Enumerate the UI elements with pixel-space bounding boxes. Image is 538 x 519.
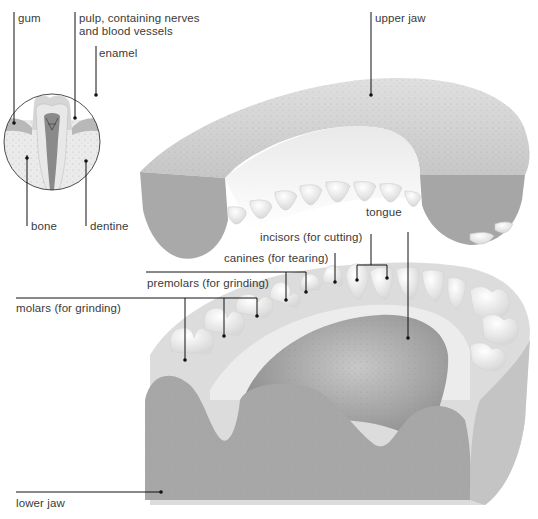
label-pulp: pulp, containing nerves and blood vessel…: [79, 12, 200, 38]
label-dentine: dentine: [90, 220, 128, 233]
label-bone: bone: [31, 220, 57, 233]
label-premolars: premolars (for grinding): [147, 277, 269, 290]
label-gum: gum: [18, 12, 41, 25]
label-enamel: enamel: [99, 47, 137, 60]
lower-jaw-illustration: [145, 262, 530, 505]
teeth-diagram: gum pulp, containing nerves and blood ve…: [0, 0, 538, 519]
label-tongue: tongue: [366, 206, 402, 219]
label-incisors: incisors (for cutting): [260, 231, 363, 244]
tooth-cross-section-inset: [0, 94, 110, 200]
label-canines: canines (for tearing): [224, 252, 328, 265]
label-lower-jaw: lower jaw: [16, 497, 65, 510]
label-upper-jaw: upper jaw: [375, 12, 426, 25]
label-molars: molars (for grinding): [16, 302, 121, 315]
